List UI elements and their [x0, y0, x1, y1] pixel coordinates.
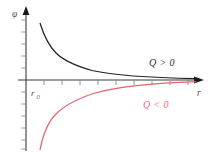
chart-canvas: φ r r 0 Q > 0 Q < 0 [0, 0, 216, 162]
y-axis-arrowhead-icon [23, 6, 30, 15]
annotation-negative-charge: Q < 0 [143, 99, 169, 110]
potential-vs-distance-figure: φ r r 0 Q > 0 Q < 0 [0, 0, 216, 162]
r-zero-label: r [31, 88, 35, 98]
annotation-positive-charge: Q > 0 [149, 57, 175, 68]
x-axis-label: r [197, 88, 201, 98]
r-zero-subscript: 0 [37, 93, 41, 100]
y-axis-ticks [22, 20, 27, 149]
curve-negative-charge [40, 82, 196, 150]
x-axis-arrowhead-icon [194, 76, 204, 83]
y-axis-label: φ [12, 9, 17, 19]
curve-positive-charge [40, 23, 196, 79]
